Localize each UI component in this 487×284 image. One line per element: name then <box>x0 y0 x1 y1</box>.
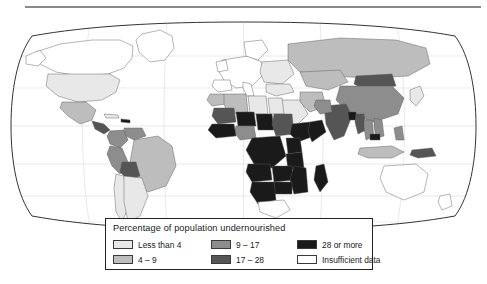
ocean-layer <box>0 16 487 236</box>
legend-label-less-than-4: Less than 4 <box>138 240 181 250</box>
region-zimbabwe <box>274 182 292 194</box>
legend-label-17-28: 17 – 28 <box>236 255 264 265</box>
legend-title: Percentage of population undernourished <box>113 223 372 233</box>
legend-items: Less than 4 4 – 9 9 – 17 17 – 28 28 or m… <box>113 237 372 267</box>
world-map <box>0 16 487 236</box>
legend-swatch-28-or-more <box>297 240 317 249</box>
region-kenya <box>286 138 302 154</box>
region-cambodia <box>370 134 380 140</box>
region-chad <box>256 114 274 130</box>
legend-item-insufficient-data: Insufficient data <box>297 255 381 265</box>
region-niger <box>236 112 256 126</box>
legend-swatch-9-17 <box>211 240 231 249</box>
region-british-isles <box>216 60 228 72</box>
legend-label-4-9: 4 – 9 <box>138 255 157 265</box>
region-mozambique <box>290 166 308 194</box>
region-egypt <box>268 98 284 114</box>
legend-swatch-less-than-4 <box>113 240 133 249</box>
region-libya <box>248 96 268 114</box>
world-map-svg <box>0 16 487 236</box>
page-root: Percentage of population undernourished … <box>0 0 487 284</box>
region-philippines <box>394 126 404 140</box>
legend-swatch-insufficient-data <box>297 255 317 264</box>
legend-swatch-17-28 <box>211 255 231 264</box>
legend-label-9-17: 9 – 17 <box>236 240 259 250</box>
map-legend: Percentage of population undernourished … <box>105 218 373 270</box>
top-divider-rule <box>25 6 481 8</box>
legend-label-insufficient-data: Insufficient data <box>322 255 381 265</box>
legend-label-28-or-more: 28 or more <box>322 240 363 250</box>
legend-item-17-28: 17 – 28 <box>211 255 297 265</box>
legend-item-4-9: 4 – 9 <box>113 255 211 265</box>
legend-swatch-4-9 <box>113 255 133 264</box>
legend-item-28-or-more: 28 or more <box>297 240 381 250</box>
legend-item-9-17: 9 – 17 <box>211 240 297 250</box>
legend-item-less-than-4: Less than 4 <box>113 240 211 250</box>
